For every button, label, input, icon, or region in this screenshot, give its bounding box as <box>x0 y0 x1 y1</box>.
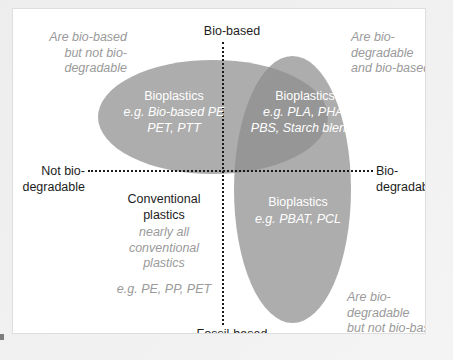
axis-label-not-biodegradable: Not bio- degradable <box>21 164 85 195</box>
figure-root: Bio-based Fossil-based Not bio- degradab… <box>0 0 453 360</box>
group-title-fossilbased-biodegradable: Bioplastics <box>242 195 354 211</box>
axis-label-biodegradable: Bio- degradable <box>376 164 425 195</box>
axis-label-fossil-based: Fossil-based <box>178 327 286 333</box>
group-examples-fossilbased-biodegradable: e.g. PBAT, PCL <box>235 212 361 228</box>
note-bottom-right: Are bio- degradable but not bio-based <box>347 290 425 333</box>
group-examples-biobased-and-biodegradable: e.g. PLA, PHA, PBS, Starch blends <box>232 105 378 136</box>
group-title-conventional-plastics: Conventional plastics <box>106 192 222 223</box>
note-top-right: Are bio- degradable and bio-based <box>351 30 425 77</box>
group-title-biobased-not-biodegradable: Bioplastics <box>109 89 239 105</box>
note-top-left: Are bio-based but not bio- degradable <box>21 30 127 77</box>
group-title-biobased-and-biodegradable: Bioplastics <box>240 89 370 105</box>
diagram-panel: Bio-based Fossil-based Not bio- degradab… <box>13 9 425 333</box>
group-examples-conventional-plastics: e.g. PE, PP, PET <box>103 282 225 298</box>
axis-label-bio-based: Bio-based <box>187 24 277 40</box>
group-note-conventional-plastics: nearly all conventional plastics <box>114 225 214 272</box>
edge-marker <box>0 334 4 340</box>
